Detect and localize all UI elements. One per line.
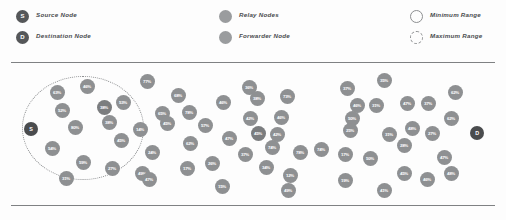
- node-relay[interactable]: 24%: [145, 145, 160, 160]
- node-forwarder[interactable]: 45%: [251, 126, 266, 141]
- node-relay[interactable]: 46%: [274, 110, 289, 125]
- node-relay[interactable]: 46%: [420, 172, 435, 187]
- node-scatter-plot: SD63%46%52%53%80%38%54%45%59%27%31%49%14…: [0, 62, 506, 205]
- node-relay[interactable]: 35%: [377, 73, 392, 88]
- node-relay[interactable]: 47%: [400, 96, 415, 111]
- node-relay[interactable]: 47%: [142, 172, 157, 187]
- legend-label-destination-node: Destination Node: [36, 32, 91, 39]
- legend-label-forwarder-node: Forwarder Node: [239, 32, 290, 39]
- node-relay[interactable]: 63%: [50, 85, 65, 100]
- node-relay[interactable]: 27%: [425, 126, 440, 141]
- node-relay[interactable]: 41%: [377, 183, 392, 198]
- node-relay[interactable]: 47%: [222, 131, 237, 146]
- legend-label-source-node: Source Node: [36, 11, 77, 18]
- node-relay[interactable]: 52%: [55, 103, 70, 118]
- source-node-glyph: S: [16, 10, 29, 23]
- node-endpoint[interactable]: D: [470, 126, 484, 140]
- node-relay[interactable]: 46%: [80, 79, 95, 94]
- node-relay[interactable]: 17%: [180, 161, 195, 176]
- node-relay[interactable]: 31%: [59, 171, 74, 186]
- node-relay[interactable]: 38%: [102, 115, 117, 130]
- destination-node-glyph: D: [16, 31, 29, 44]
- node-relay[interactable]: 37%: [238, 147, 253, 162]
- node-relay[interactable]: 19%: [338, 173, 353, 188]
- forwarder-node-marker-icon: [219, 31, 232, 44]
- node-endpoint[interactable]: S: [24, 122, 38, 136]
- node-relay[interactable]: 45%: [114, 133, 129, 148]
- figure-divider-bottom: [11, 205, 495, 206]
- node-relay[interactable]: 73%: [280, 89, 295, 104]
- minimum-range-circle-icon: [410, 10, 423, 23]
- node-relay[interactable]: 38%: [250, 91, 265, 106]
- maximum-range-circle-icon: [410, 31, 423, 44]
- source-node-marker-icon: S: [16, 10, 29, 23]
- node-relay[interactable]: 62%: [448, 85, 463, 100]
- legend-label-minimum-range: Minimum Range: [430, 11, 481, 18]
- node-relay[interactable]: 53%: [116, 95, 131, 110]
- network-topology-figure: S Source Node D Destination Node Relay N…: [0, 0, 506, 220]
- node-relay[interactable]: 74%: [265, 140, 280, 155]
- node-relay[interactable]: 59%: [76, 155, 91, 170]
- node-relay[interactable]: 31%: [382, 127, 397, 142]
- node-relay[interactable]: 34%: [259, 160, 274, 175]
- node-relay[interactable]: 26%: [205, 156, 220, 171]
- node-relay[interactable]: 46%: [216, 95, 231, 110]
- node-relay[interactable]: 48%: [405, 121, 420, 136]
- node-relay[interactable]: 77%: [140, 74, 155, 89]
- node-relay[interactable]: 25%: [343, 123, 358, 138]
- node-relay[interactable]: 28%: [397, 138, 412, 153]
- destination-node-marker-icon: D: [16, 31, 29, 44]
- node-relay[interactable]: 12%: [283, 168, 298, 183]
- node-relay[interactable]: 31%: [369, 98, 384, 113]
- node-relay[interactable]: 47%: [437, 150, 452, 165]
- node-relay[interactable]: 74%: [314, 142, 329, 157]
- node-relay[interactable]: 80%: [68, 120, 83, 135]
- node-relay[interactable]: 62%: [183, 136, 198, 151]
- node-relay[interactable]: 37%: [421, 96, 436, 111]
- node-relay[interactable]: 14%: [133, 122, 148, 137]
- node-forwarder[interactable]: 38%: [97, 100, 112, 115]
- node-relay[interactable]: 42%: [243, 111, 258, 126]
- node-relay[interactable]: 45%: [397, 166, 412, 181]
- node-relay[interactable]: 27%: [105, 161, 120, 176]
- legend-label-maximum-range: Maximum Range: [430, 32, 482, 39]
- legend: S Source Node D Destination Node Relay N…: [0, 0, 506, 58]
- node-relay[interactable]: 78%: [293, 145, 308, 160]
- node-relay[interactable]: 68%: [171, 88, 186, 103]
- node-relay[interactable]: 37%: [340, 81, 355, 96]
- node-relay[interactable]: 57%: [198, 118, 213, 133]
- legend-label-relay-nodes: Relay Nodes: [239, 11, 279, 18]
- node-relay[interactable]: 49%: [281, 183, 296, 198]
- node-relay[interactable]: 62%: [444, 111, 459, 126]
- node-relay[interactable]: 48%: [444, 166, 459, 181]
- node-relay[interactable]: 78%: [182, 105, 197, 120]
- relay-nodes-marker-icon: [219, 10, 232, 23]
- node-relay[interactable]: 17%: [338, 147, 353, 162]
- node-relay[interactable]: 15%: [215, 179, 230, 194]
- node-relay[interactable]: 50%: [363, 151, 378, 166]
- node-relay[interactable]: 54%: [45, 141, 60, 156]
- node-relay[interactable]: 45%: [160, 116, 175, 131]
